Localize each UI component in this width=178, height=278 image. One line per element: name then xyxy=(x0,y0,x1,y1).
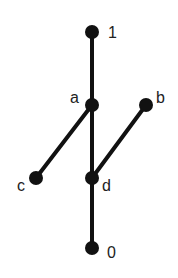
label-d: d xyxy=(102,177,111,194)
label-1: 1 xyxy=(108,24,117,41)
node-1 xyxy=(85,25,99,39)
node-d xyxy=(85,171,99,185)
edge-b-d xyxy=(92,105,146,178)
node-0 xyxy=(85,241,99,255)
label-c: c xyxy=(17,177,25,194)
edge-a-c xyxy=(36,105,92,178)
node-c xyxy=(29,171,43,185)
label-a: a xyxy=(70,89,79,106)
node-a xyxy=(85,98,99,112)
edges xyxy=(36,32,146,248)
label-0: 0 xyxy=(107,244,116,261)
label-b: b xyxy=(156,89,165,106)
hasse-diagram: 1 a b c d 0 xyxy=(0,0,178,278)
node-b xyxy=(139,98,153,112)
